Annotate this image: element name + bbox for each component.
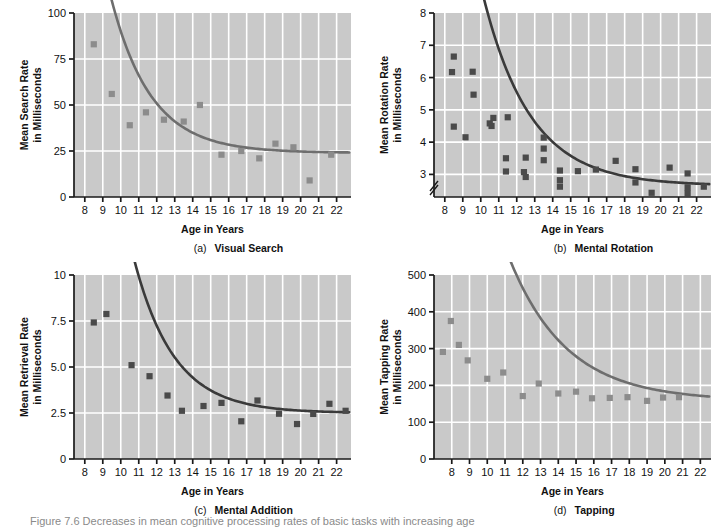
x-tick-label: 20 [659,466,671,478]
data-point [557,177,563,183]
x-tick-label: 13 [529,204,541,216]
x-tick-label: 17 [601,204,613,216]
data-point [490,115,496,121]
y-axis-title-line2: in Milliseconds [31,329,43,404]
chart-panel-mental-rotation: 3456788910111213141516171819202122Mean R… [360,0,719,258]
x-tick-label: 14 [187,466,199,478]
data-point [503,168,509,174]
data-point [448,318,454,324]
y-axis-title-line1: Mean Search Rate [18,60,30,151]
data-point [456,342,462,348]
data-point [667,165,673,171]
x-tick-label: 9 [466,466,472,478]
y-tick-label: 75 [54,53,66,65]
data-point [685,184,691,190]
data-point [218,400,224,406]
panel-caption: (a)Visual Search [194,242,284,254]
x-tick-label: 13 [169,204,181,216]
x-axis-title: Age in Years [541,223,604,235]
x-tick-label: 14 [187,204,199,216]
x-axis-title: Age in Years [541,485,604,497]
y-tick-label: 4 [420,136,426,148]
y-tick-label: 8 [420,7,426,19]
data-point [557,167,563,173]
x-tick-label: 18 [623,466,635,478]
data-point [701,184,707,190]
data-point [536,380,542,386]
x-tick-label: 8 [449,466,455,478]
y-tick-label: 0 [420,453,426,465]
x-tick-label: 20 [295,466,307,478]
x-tick-label: 16 [223,204,235,216]
x-tick-label: 10 [481,466,493,478]
y-axis-title: Mean Tapping Ratein Milliseconds [378,319,403,415]
data-point [238,148,244,154]
data-point [632,179,638,185]
data-point [607,395,613,401]
data-point [343,408,349,414]
y-axis-title-line1: Mean Rotation Rate [378,56,390,154]
panel-caption: (b)Mental Rotation [554,242,654,254]
data-point [649,190,655,196]
panel-caption-title: Visual Search [215,242,284,254]
y-tick-label: 5 [420,104,426,116]
data-point [200,403,206,409]
data-point [462,134,468,140]
data-point [328,152,334,158]
x-tick-label: 9 [100,466,106,478]
x-tick-label: 11 [493,204,504,216]
x-tick-label: 18 [259,466,271,478]
data-point [326,401,332,407]
x-tick-label: 15 [570,466,582,478]
x-axis-ticks: 8910111213141516171819202122 [442,197,703,216]
data-point [238,418,244,424]
data-point [127,122,133,128]
chart-svg-a: 02550751008910111213141516171819202122Me… [0,0,359,258]
data-point [470,69,476,75]
data-point [161,117,167,123]
data-point [91,319,97,325]
data-point [555,390,561,396]
y-tick-label: 200 [408,379,426,391]
x-tick-label: 9 [460,204,466,216]
x-tick-label: 8 [442,204,448,216]
x-tick-label: 19 [641,466,653,478]
data-point [484,376,490,382]
x-tick-label: 22 [330,204,342,216]
data-point [272,141,278,147]
y-tick-label: 7.5 [51,315,66,327]
data-point [644,398,650,404]
y-axis-title-line1: Mean Retrieval Rate [18,317,30,417]
y-tick-label: 100 [408,416,426,428]
y-axis-title: Mean Retrieval Ratein Milliseconds [18,317,43,417]
x-axis-ticks: 8910111213141516171819202122 [82,459,343,478]
plot-background [434,275,711,459]
data-point [465,357,471,363]
x-tick-label: 9 [100,204,106,216]
x-tick-label: 8 [82,466,88,478]
x-tick-label: 21 [312,466,324,478]
y-tick-label: 100 [48,7,66,19]
x-tick-label: 11 [133,204,144,216]
y-axis-title: Mean Rotation Ratein Milliseconds [378,56,403,154]
x-tick-label: 21 [672,204,684,216]
x-tick-label: 20 [295,204,307,216]
x-tick-label: 10 [115,466,127,478]
data-point [685,190,691,196]
x-tick-label: 22 [330,466,342,478]
y-tick-label: 3 [420,168,426,180]
x-tick-label: 11 [133,466,144,478]
data-point [589,395,595,401]
data-point [575,168,581,174]
x-tick-label: 15 [205,204,217,216]
data-point [557,184,563,190]
x-tick-label: 18 [259,204,271,216]
x-axis-title: Age in Years [181,485,244,497]
y-tick-label: 0 [60,191,66,203]
y-axis-ticks: 02.55.07.510 [51,269,74,465]
x-tick-label: 15 [205,466,217,478]
chart-svg-b: 3456788910111213141516171819202122Mean R… [360,0,719,258]
chart-svg-c: 02.55.07.5108910111213141516171819202122… [0,262,359,520]
x-tick-label: 14 [547,204,559,216]
data-point [632,166,638,172]
